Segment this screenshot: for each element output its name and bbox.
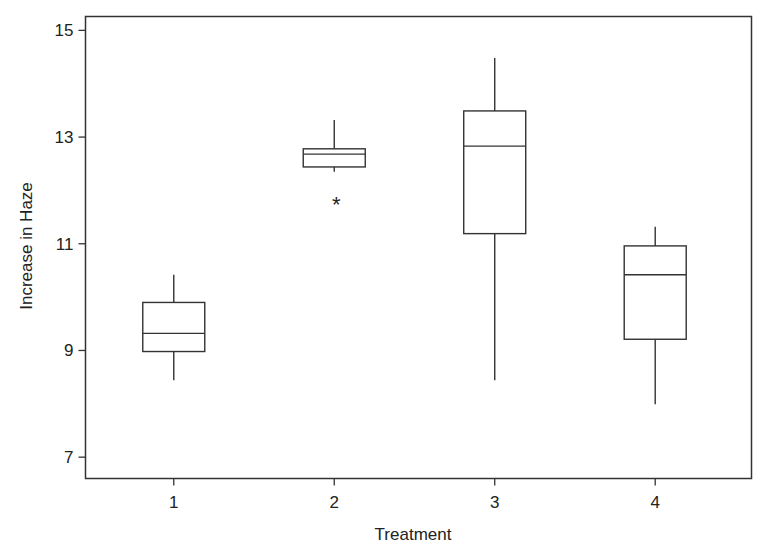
- box-group-1: [143, 275, 205, 381]
- box-plot-chart: 79111315 1234 * Treatment Increase in Ha…: [0, 0, 767, 557]
- box: [143, 302, 205, 351]
- box: [464, 111, 526, 234]
- box-group-3: [464, 58, 526, 380]
- y-axis: 79111315: [55, 21, 86, 467]
- boxes: *: [143, 58, 686, 404]
- box-group-2: *: [303, 120, 365, 217]
- x-tick-label: 2: [330, 493, 339, 512]
- y-tick-label: 11: [56, 235, 74, 254]
- x-tick-label: 4: [650, 493, 659, 512]
- x-axis: 1234: [169, 479, 660, 512]
- y-tick-label: 7: [64, 448, 73, 467]
- plot-frame: [86, 17, 752, 479]
- x-tick-label: 1: [169, 493, 178, 512]
- x-axis-title: Treatment: [375, 525, 452, 544]
- x-tick-label: 3: [490, 493, 499, 512]
- y-tick-label: 15: [55, 21, 74, 40]
- y-tick-label: 13: [55, 128, 74, 147]
- box-group-4: [624, 227, 686, 405]
- y-tick-label: 9: [64, 341, 73, 360]
- y-axis-title: Increase in Haze: [17, 182, 36, 310]
- box: [624, 246, 686, 339]
- box: [303, 149, 365, 167]
- outlier-marker: *: [332, 192, 341, 217]
